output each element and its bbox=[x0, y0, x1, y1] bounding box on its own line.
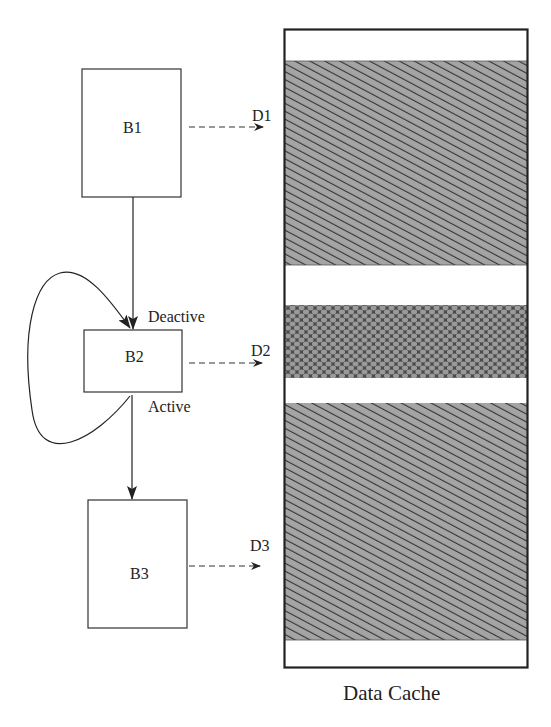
data-cache bbox=[285, 30, 528, 668]
block-b1-label: B1 bbox=[123, 120, 142, 136]
data-ref-d3-label: D3 bbox=[250, 538, 270, 554]
edge-deactive-label: Deactive bbox=[148, 309, 205, 325]
cache-band-empty-2 bbox=[285, 378, 527, 403]
data-ref-d1-label: D1 bbox=[252, 108, 272, 124]
cache-band-empty-top bbox=[285, 30, 527, 61]
cache-band-empty-1 bbox=[285, 265, 527, 305]
block-b2-label: B2 bbox=[125, 349, 144, 365]
cache-band-d3 bbox=[285, 403, 527, 640]
data-ref-d2-label: D2 bbox=[251, 343, 271, 359]
block-b3-label: B3 bbox=[130, 566, 149, 582]
block-b3 bbox=[88, 500, 187, 628]
cache-band-d1 bbox=[285, 61, 527, 265]
data-cache-title: Data Cache bbox=[343, 683, 440, 704]
cache-band-d2 bbox=[285, 305, 527, 378]
cache-band-empty-bottom bbox=[285, 640, 527, 667]
edge-active-label: Active bbox=[148, 399, 191, 415]
diagram-canvas bbox=[0, 0, 551, 727]
